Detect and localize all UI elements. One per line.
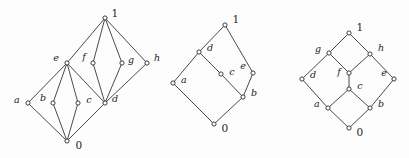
node-f[interactable] <box>91 61 95 65</box>
node-b[interactable] <box>51 101 55 105</box>
node-label-b: b <box>40 93 46 103</box>
node-label-a: a <box>181 75 187 85</box>
node-f[interactable] <box>347 71 351 75</box>
node-label-f: f <box>82 52 86 62</box>
node-h[interactable] <box>368 52 372 56</box>
edge-a-bot <box>173 83 214 124</box>
lattice-left-nodes <box>26 16 149 143</box>
node-label-g: g <box>128 55 134 65</box>
diagram-canvas <box>0 0 409 158</box>
edge-d-c <box>199 52 221 74</box>
node-b[interactable] <box>241 95 245 99</box>
hasse-diagram-figure: 1efghabcd01decab01ghdfecab0 <box>0 0 409 158</box>
node-bot[interactable] <box>65 139 69 143</box>
node-label-f: f <box>337 67 341 77</box>
node-label-b: b <box>251 88 257 98</box>
node-top[interactable] <box>223 23 227 27</box>
node-g[interactable] <box>120 61 124 65</box>
edge-top-g <box>105 18 122 63</box>
node-label-top: 1 <box>233 14 240 25</box>
node-label-d: d <box>310 70 316 80</box>
nodes-layer <box>26 16 396 143</box>
node-top[interactable] <box>347 31 351 35</box>
node-g[interactable] <box>327 51 331 55</box>
edge-top-g <box>329 33 349 53</box>
node-b[interactable] <box>368 106 372 110</box>
node-e[interactable] <box>65 61 69 65</box>
node-label-b: b <box>378 99 384 109</box>
node-c[interactable] <box>76 101 80 105</box>
node-label-d: d <box>207 43 213 53</box>
node-c[interactable] <box>219 72 223 76</box>
node-label-top: 1 <box>357 22 364 33</box>
node-h[interactable] <box>145 61 149 65</box>
edge-top-h <box>349 33 370 54</box>
edge-a-bot <box>28 103 67 141</box>
edge-c-b <box>221 74 243 97</box>
node-label-a: a <box>14 95 20 105</box>
node-top[interactable] <box>103 16 107 20</box>
edge-b-bot <box>53 103 67 141</box>
edge-b-bot <box>214 97 243 124</box>
node-bot[interactable] <box>212 122 216 126</box>
node-label-g: g <box>315 44 321 54</box>
node-d[interactable] <box>103 101 107 105</box>
node-label-bot: 0 <box>222 123 229 134</box>
node-a[interactable] <box>326 106 330 110</box>
edge-e-a <box>28 63 67 103</box>
node-a[interactable] <box>171 81 175 85</box>
node-e[interactable] <box>392 77 396 81</box>
node-a[interactable] <box>26 101 30 105</box>
node-label-h: h <box>154 53 160 63</box>
node-label-c: c <box>357 81 362 91</box>
node-label-h: h <box>378 43 384 53</box>
node-bot[interactable] <box>347 126 351 130</box>
node-label-bot: 0 <box>357 127 364 138</box>
node-label-top: 1 <box>112 8 119 19</box>
node-label-c: c <box>86 95 91 105</box>
edge-c-b <box>349 89 370 108</box>
edge-top-h <box>105 18 147 63</box>
edge-a-bot <box>328 108 349 128</box>
node-label-a: a <box>314 99 320 109</box>
node-c[interactable] <box>347 87 351 91</box>
node-d[interactable] <box>300 77 304 81</box>
node-d[interactable] <box>197 50 201 54</box>
node-label-d: d <box>112 94 118 104</box>
edges-layer <box>28 18 394 141</box>
edge-c-a <box>328 89 349 108</box>
edge-h-f <box>349 54 370 73</box>
node-e[interactable] <box>251 71 255 75</box>
node-label-e: e <box>240 61 246 71</box>
lattice-left-edges <box>28 18 147 141</box>
node-label-bot: 0 <box>76 140 83 151</box>
node-label-e: e <box>53 53 59 63</box>
node-label-c: c <box>229 67 234 77</box>
edge-e-b <box>53 63 67 103</box>
node-label-e: e <box>381 68 387 78</box>
